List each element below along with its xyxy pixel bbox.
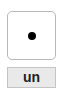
die-face-one-icon (7, 11, 56, 60)
pip-dot-icon (28, 32, 36, 40)
number-word-button[interactable]: un (7, 67, 56, 88)
